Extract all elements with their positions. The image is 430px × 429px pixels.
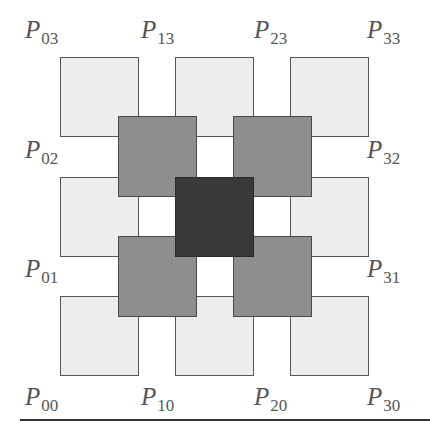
label-p13: P13 [141,17,174,47]
label-p01: P01 [25,256,58,286]
label-p30: P30 [367,384,400,414]
bottom-rule-line [20,419,430,421]
label-p32: P32 [367,137,400,167]
label-p20: P20 [254,384,287,414]
label-p00: P00 [25,384,58,414]
label-p23: P23 [254,17,287,47]
label-p10: P10 [141,384,174,414]
label-p03: P03 [25,17,58,47]
label-p33: P33 [367,17,400,47]
label-p31: P31 [367,256,400,286]
label-p02: P02 [25,137,58,167]
dark-center-square [175,177,254,257]
